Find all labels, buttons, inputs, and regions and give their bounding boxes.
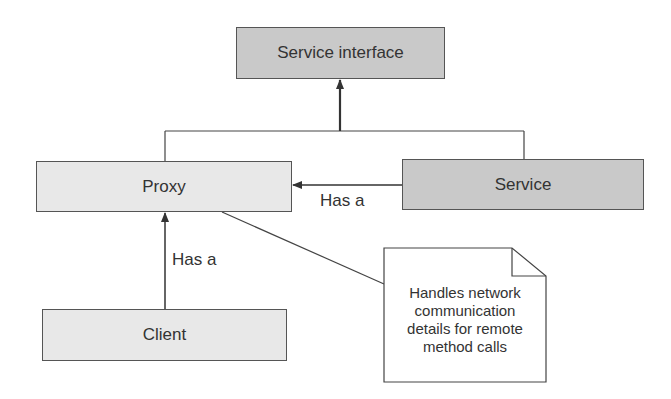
service-interface-label: Service interface: [277, 43, 404, 63]
client-node: Client: [42, 309, 287, 361]
note-text: Handles network communication details fo…: [384, 284, 546, 356]
implements-connector: [165, 80, 524, 161]
note-line: method calls: [384, 338, 546, 356]
service-node: Service: [402, 159, 644, 210]
service-has-a-label: Has a: [320, 191, 364, 211]
proxy-node: Proxy: [36, 161, 292, 212]
service-interface-node: Service interface: [236, 27, 445, 79]
client-label: Client: [143, 325, 186, 345]
proxy-label: Proxy: [142, 177, 185, 197]
note-line: Handles network: [384, 284, 546, 302]
note-line: details for remote: [384, 320, 546, 338]
note-line: communication: [384, 302, 546, 320]
client-has-a-label: Has a: [172, 250, 216, 270]
note-connector: [222, 212, 384, 284]
service-label: Service: [495, 175, 552, 195]
